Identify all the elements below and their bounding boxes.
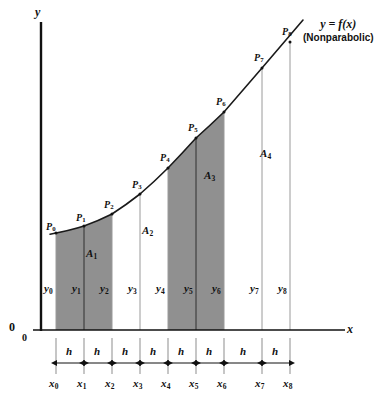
point-label-P3: P3 [132, 180, 142, 191]
interval-label-2: h [94, 346, 100, 357]
point-label-P4: P4 [160, 153, 170, 164]
curve-point-P1 [83, 225, 86, 228]
ordinate-label-y1: y1 [72, 283, 81, 295]
curve-point-P5 [195, 137, 198, 140]
point-label-P8: P8 [282, 27, 292, 38]
ordinate-label-y3: y3 [128, 283, 137, 295]
area-label-A4: A4 [260, 148, 271, 160]
abscissa-label-x0: x0 [49, 378, 58, 390]
origin-label: 0 [9, 321, 15, 333]
interval-label-4: h [150, 346, 156, 357]
abscissa-label-x3: x3 [133, 378, 142, 390]
area-label-A1: A1 [86, 248, 97, 260]
point-label-P2: P2 [104, 200, 114, 211]
abscissa-label-x7: x7 [255, 378, 264, 390]
abscissa-label-x5: x5 [189, 378, 198, 390]
interval-label-7: h [240, 346, 246, 357]
area-label-A2: A2 [142, 225, 153, 237]
point-label-P7: P7 [254, 53, 264, 64]
abscissa-label-x1: x1 [77, 378, 86, 390]
interval-label-3: h [122, 346, 128, 357]
abscissa-label-x8: x8 [283, 378, 292, 390]
origin-label-lower: 0 [22, 333, 27, 343]
curve-point-P4 [167, 167, 170, 170]
dimension-tick-lines [56, 338, 290, 374]
figure-vector-graphics [0, 0, 374, 395]
interval-label-5: h [178, 346, 184, 357]
function-label-group: y = f(x) (Nonparabolic) [303, 18, 374, 43]
point-label-P6: P6 [216, 97, 226, 108]
function-equation-label: y = f(x) [303, 18, 374, 32]
x-axis-label: x [347, 323, 353, 335]
abscissa-label-x6: x6 [217, 378, 226, 390]
interval-label-1: h [66, 346, 72, 357]
ordinate-label-y8: y8 [278, 283, 287, 295]
point-label-P1: P1 [76, 213, 86, 224]
ordinate-label-y2: y2 [100, 283, 109, 295]
ordinate-label-y5: y5 [184, 283, 193, 295]
y-axis-label: y [35, 6, 40, 18]
curve-point-P6 [223, 111, 226, 114]
ordinate-label-y6: y6 [212, 283, 221, 295]
area-label-A3: A3 [204, 170, 215, 182]
curve-point-P3 [139, 193, 142, 196]
figure-canvas: y x 0 0 y = f(x) (Nonparabolic) P0 P1 P2… [0, 0, 374, 395]
interval-label-6: h [206, 346, 212, 357]
function-qualifier-label: (Nonparabolic) [303, 32, 374, 44]
ordinate-label-y7: y7 [250, 283, 259, 295]
point-label-P5: P5 [188, 123, 198, 134]
abscissa-label-x2: x2 [105, 378, 114, 390]
interval-label-8: h [272, 346, 278, 357]
curve-point-P2 [111, 213, 114, 216]
curve-point-P8 [289, 41, 292, 44]
ordinate-label-y0: y0 [44, 283, 53, 295]
ordinate-label-y4: y4 [156, 283, 165, 295]
curve-point-P7 [261, 67, 264, 70]
abscissa-label-x4: x4 [161, 378, 170, 390]
point-label-P0: P0 [46, 222, 56, 233]
